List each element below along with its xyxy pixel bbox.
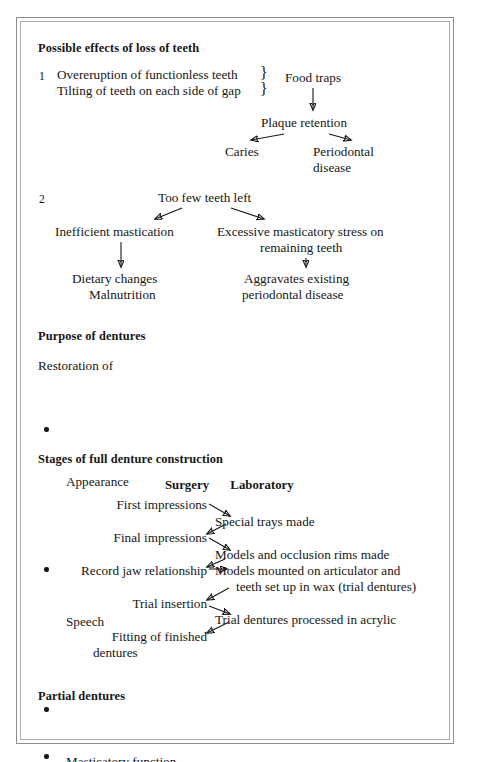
item-1-cause-line-2: Tilting of teeth on each side of gap (57, 83, 241, 99)
brace-icon-lower: } (260, 81, 268, 97)
item-2-leaf-left-line-2: Malnutrition (89, 287, 156, 303)
heading-loss-of-teeth: Possible effects of loss of teeth (38, 41, 199, 56)
brace-icon-upper: } (260, 65, 268, 81)
bullet-icon (44, 707, 49, 712)
surgery-step-fitting-of-finished: Fitting of finished (112, 629, 207, 645)
item-2-root: Too few teeth left (158, 190, 251, 206)
column-header-laboratory: Laboratory (230, 478, 293, 493)
item-2-branch-left: Inefficient mastication (55, 224, 174, 240)
surgery-step-first-impressions: First impressions (117, 497, 208, 513)
arrow-plaque-to-periodontal (329, 134, 351, 140)
bullet-icon (44, 567, 49, 572)
item-1-number: 1 (39, 70, 45, 83)
item-2-leaf-right-line-2: periodontal disease (242, 287, 343, 303)
item-1-outcome-caries: Caries (225, 144, 259, 160)
laboratory-step-models-and-occlusion-rims-made: Models and occlusion rims made (215, 547, 389, 563)
arrow-plaque-to-caries (251, 134, 284, 140)
partial-bullet-list: Elastic impression material – alginate; … (44, 712, 434, 762)
bullet-icon (44, 754, 49, 759)
column-header-surgery: Surgery (165, 478, 209, 493)
surgery-step-record-jaw-relationship: Record jaw relationship (81, 563, 207, 579)
purpose-intro: Restoration of (38, 358, 113, 374)
laboratory-step-special-trays-made: Special trays made (215, 514, 315, 530)
item-2-branch-right-line-1: Excessive masticatory stress on (217, 224, 384, 240)
item-1-food-traps: Food traps (285, 70, 341, 86)
laboratory-step-models-mounted-line-1: Models mounted on articulator and (215, 563, 400, 579)
surgery-step-trial-insertion: Trial insertion (132, 596, 207, 612)
laboratory-step-models-mounted-line-2: teeth set up in wax (trial dentures) (236, 579, 416, 595)
list-item: Elastic impression material – alginate; … (44, 747, 434, 762)
item-2-leaf-left-line-1: Dietary changes (72, 271, 157, 287)
document-content: Possible effects of loss of teeth 1 Over… (17, 18, 455, 745)
heading-stages-of-full-denture-construction: Stages of full denture construction (38, 452, 223, 467)
laboratory-step-trial-dentures-processed: Trial dentures processed in acrylic (215, 612, 396, 628)
item-1-outcome-periodontal-line-1: Periodontal (313, 144, 374, 160)
item-2-branch-right-line-2: remaining teeth (260, 240, 342, 256)
arrow-toofew-to-inefficient (155, 208, 182, 219)
surgery-step-final-impressions: Final impressions (114, 530, 207, 546)
item-1-outcome-periodontal-line-2: disease (313, 160, 351, 176)
item-1-plaque-retention: Plaque retention (261, 115, 347, 131)
item-2-number: 2 (39, 193, 45, 206)
surgery-step-dentures: dentures (93, 645, 138, 661)
heading-purpose-of-dentures: Purpose of dentures (38, 329, 146, 344)
arrow-toofew-to-excessive (231, 208, 264, 219)
heading-partial-dentures: Partial dentures (38, 689, 125, 704)
item-1-cause-line-1: Overeruption of functionless teeth (57, 67, 238, 83)
item-2-leaf-right-line-1: Aggravates existing (244, 271, 349, 287)
page-frame: Possible effects of loss of teeth 1 Over… (16, 17, 454, 744)
bullet-icon (44, 427, 49, 432)
